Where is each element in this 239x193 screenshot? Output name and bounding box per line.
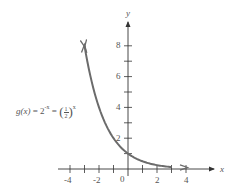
x-tick-label-4: 4	[184, 176, 189, 185]
x-tick-label-neg4: -4	[64, 176, 72, 185]
equation-eq2: =	[50, 106, 60, 116]
y-tick-label-4: 4	[116, 103, 121, 112]
y-tick-label-2: 2	[116, 134, 121, 143]
x-tick-label-2: 2	[155, 176, 160, 185]
function-curve	[85, 46, 114, 144]
origin-label: 0	[120, 175, 125, 184]
equation-eq1: = 2	[31, 106, 45, 116]
y-tick-label-6: 6	[116, 72, 121, 81]
y-tick-label-8: 8	[116, 41, 121, 50]
equation-exp2: x	[73, 104, 76, 110]
plot-area	[0, 0, 239, 193]
y-axis-label: y	[126, 9, 130, 18]
function-label: g(x) = 2-x = (12)x	[16, 104, 76, 120]
x-tick-label-neg2: -2	[93, 176, 101, 185]
x-axis-label: x	[220, 165, 224, 174]
equation-lhs: g(x)	[16, 106, 31, 116]
